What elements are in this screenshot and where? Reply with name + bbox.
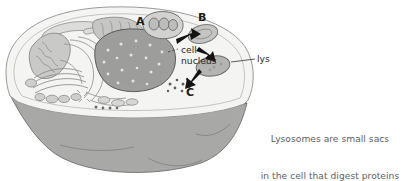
step-label-c: C	[186, 86, 194, 99]
step-label-b: B	[198, 11, 206, 24]
cell-diagram: A B C cell nucleus lysosome	[0, 0, 270, 181]
lysosome-label: lysosome	[257, 53, 270, 64]
step-label-a: A	[136, 15, 145, 28]
caption-line: Lysosomes are small sacs	[243, 133, 417, 145]
lysosome-figure: A B C cell nucleus lysosome Lysosomes ar…	[0, 0, 417, 181]
caption-line: in the cell that digest proteins	[243, 170, 417, 181]
structure-a	[143, 12, 183, 39]
nucleus-label-line2: nucleus	[181, 55, 217, 66]
figure-caption: Lysosomes are small sacs in the cell tha…	[243, 108, 417, 181]
nucleus-label-line1: cell	[181, 44, 197, 55]
